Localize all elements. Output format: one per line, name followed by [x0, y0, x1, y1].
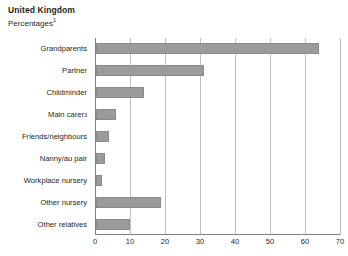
- x-tick-label-40: 40: [231, 237, 239, 246]
- bar-grandparents[interactable]: [96, 43, 319, 54]
- plot-area: [95, 38, 340, 235]
- category-label-text: Grandparents: [41, 44, 87, 53]
- category-label-text: Nanny/au pair: [40, 154, 87, 163]
- bar-row: [95, 169, 340, 191]
- x-tick-label-30: 30: [196, 237, 204, 246]
- chart-title: United Kingdom: [8, 5, 75, 15]
- bar-nanny-au-pair[interactable]: [96, 153, 105, 164]
- bar-main-carer[interactable]: [96, 109, 116, 120]
- category-label-main-carer: Main carer3: [0, 104, 91, 126]
- bar-row: [95, 38, 340, 60]
- category-label-text: Childminder: [46, 88, 87, 97]
- category-label-workplace-nursery: Workplace nursery: [0, 169, 91, 191]
- category-label-other-relatives: Other relatives: [0, 213, 91, 235]
- bar-row: [95, 213, 340, 235]
- chart-subtitle-footnote: 1: [53, 17, 56, 23]
- category-axis-labels: GrandparentsPartnerChildminderMain carer…: [0, 38, 91, 235]
- x-tick-label-10: 10: [126, 237, 134, 246]
- category-label-grandparents: Grandparents: [0, 38, 91, 60]
- bar-row: [95, 147, 340, 169]
- bar-rows: [95, 38, 340, 235]
- category-label-childminder: Childminder: [0, 82, 91, 104]
- chart-subtitle: Percentages1: [8, 19, 56, 28]
- bar-workplace-nursery[interactable]: [96, 175, 102, 186]
- x-tick-label-0: 0: [93, 237, 97, 246]
- category-label-other-nursery: Other nursery: [0, 191, 91, 213]
- x-tick-label-60: 60: [301, 237, 309, 246]
- x-tick-label-50: 50: [266, 237, 274, 246]
- bar-other-nursery[interactable]: [96, 197, 161, 208]
- x-tick-label-20: 20: [161, 237, 169, 246]
- category-label-text: Workplace nursery: [24, 176, 87, 185]
- bar-row: [95, 104, 340, 126]
- category-label-friends-neighbours: Friends/neighbours: [0, 126, 91, 148]
- bar-friends-neighbours[interactable]: [96, 131, 109, 142]
- chart-figure: United Kingdom Percentages1 Grandparents…: [0, 0, 348, 256]
- category-label-text: Other relatives: [38, 220, 87, 229]
- bar-row: [95, 60, 340, 82]
- bar-childminder[interactable]: [96, 87, 144, 98]
- category-label-text: Friends/neighbours: [22, 132, 87, 141]
- chart-subtitle-text: Percentages: [8, 19, 53, 28]
- category-label-text: Other nursery: [41, 198, 87, 207]
- category-label-text: Main carer: [48, 110, 84, 119]
- bar-row: [95, 191, 340, 213]
- bar-row: [95, 82, 340, 104]
- category-label-nanny-au-pair: Nanny/au pair: [0, 147, 91, 169]
- gridline-70: [340, 38, 341, 235]
- category-label-text: Partner: [62, 66, 87, 75]
- x-tick-label-70: 70: [336, 237, 344, 246]
- x-axis-tick-labels: 010203040506070: [95, 237, 340, 251]
- bar-other-relatives[interactable]: [96, 219, 130, 230]
- category-label-partner: Partner: [0, 60, 91, 82]
- bar-partner[interactable]: [96, 65, 204, 76]
- bar-row: [95, 126, 340, 148]
